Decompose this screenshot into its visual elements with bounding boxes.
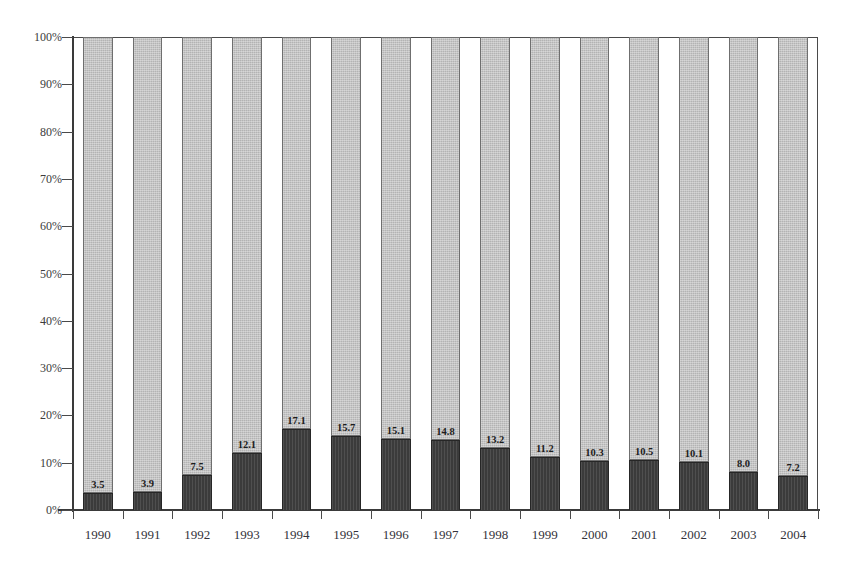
- x-axis-tick: [123, 510, 124, 519]
- x-axis-tick: [172, 510, 173, 519]
- bar-value-label: 15.1: [378, 426, 414, 437]
- bar-value-label: 8.0: [726, 459, 762, 470]
- y-axis-tick-label: 50%: [6, 268, 62, 280]
- bar-segment-upper: [133, 37, 163, 492]
- y-axis-label-wrap: 10%: [0, 463, 62, 464]
- bar-value-label: 13.2: [477, 435, 513, 446]
- bar-value-label: 7.2: [775, 463, 811, 474]
- x-axis-tick: [619, 510, 620, 519]
- bar-segment-upper: [729, 37, 759, 472]
- bars-layer: 3.53.97.512.117.115.715.114.813.211.210.…: [73, 37, 818, 510]
- bar-segment-upper: [530, 37, 560, 457]
- x-axis-tick: [520, 510, 521, 519]
- y-axis-tick: [62, 510, 73, 511]
- bar-column: 17.1: [282, 37, 312, 510]
- x-axis-tick: [321, 510, 322, 519]
- x-axis-tick-label: 1990: [73, 528, 123, 542]
- bar-value-label: 10.1: [676, 449, 712, 460]
- bar-column: 10.5: [629, 37, 659, 510]
- x-axis-tick-label: 1997: [421, 528, 471, 542]
- bar-value-label: 10.3: [577, 448, 613, 459]
- bar-value-label: 14.8: [428, 427, 464, 438]
- x-axis-tick-label: 1999: [520, 528, 570, 542]
- bar-segment-lower: [778, 476, 808, 510]
- x-axis-tick: [222, 510, 223, 519]
- x-axis-tick-label: 1996: [371, 528, 421, 542]
- y-axis-tick: [62, 415, 73, 416]
- bar-column: 10.1: [679, 37, 709, 510]
- x-axis-tick-label: 1991: [123, 528, 173, 542]
- bar-column: 7.5: [182, 37, 212, 510]
- bar-segment-upper: [480, 37, 510, 448]
- x-axis-tick: [570, 510, 571, 519]
- bar-segment-lower: [232, 453, 262, 510]
- y-axis-label-wrap: 30%: [0, 368, 62, 369]
- bar-segment-lower: [580, 461, 610, 510]
- bar-value-label: 12.1: [229, 440, 265, 451]
- x-axis-tick: [768, 510, 769, 519]
- x-axis-tick: [371, 510, 372, 519]
- y-axis-tick-label: 80%: [6, 126, 62, 138]
- bar-column: 14.8: [431, 37, 461, 510]
- y-axis-tick-label: 0%: [6, 504, 62, 516]
- bar-column: 8.0: [729, 37, 759, 510]
- x-axis-tick-label: 2001: [619, 528, 669, 542]
- x-axis-tick: [818, 510, 819, 519]
- y-axis-label-wrap: 40%: [0, 321, 62, 322]
- bar-segment-upper: [232, 37, 262, 453]
- bar-column: 13.2: [480, 37, 510, 510]
- bar-segment-upper: [381, 37, 411, 439]
- x-axis-tick: [470, 510, 471, 519]
- bar-segment-upper: [83, 37, 113, 493]
- y-axis-tick: [62, 463, 73, 464]
- y-axis-label-wrap: 90%: [0, 84, 62, 85]
- bar-segment-upper: [580, 37, 610, 461]
- y-axis-tick-label: 60%: [6, 220, 62, 232]
- y-axis-tick-label: 20%: [6, 409, 62, 421]
- y-axis-tick-label: 90%: [6, 78, 62, 90]
- bar-segment-lower: [282, 429, 312, 510]
- bar-column: 12.1: [232, 37, 262, 510]
- bar-segment-lower: [431, 440, 461, 510]
- bar-segment-lower: [729, 472, 759, 510]
- x-axis-tick-label: 2000: [570, 528, 620, 542]
- y-axis-tick-label: 70%: [6, 173, 62, 185]
- bar-segment-upper: [331, 37, 361, 436]
- bar-segment-upper: [629, 37, 659, 460]
- bar-segment-lower: [133, 492, 163, 510]
- bar-column: 15.1: [381, 37, 411, 510]
- x-axis-tick: [272, 510, 273, 519]
- y-axis-tick: [62, 226, 73, 227]
- y-axis-tick: [62, 84, 73, 85]
- bar-value-label: 17.1: [279, 416, 315, 427]
- y-axis-tick: [62, 179, 73, 180]
- x-axis-tick-label: 1994: [272, 528, 322, 542]
- bar-value-label: 7.5: [179, 462, 215, 473]
- bar-column: 7.2: [778, 37, 808, 510]
- y-axis-label-wrap: 80%: [0, 132, 62, 133]
- y-axis-tick: [62, 368, 73, 369]
- bar-segment-lower: [182, 475, 212, 510]
- clipped-header-strip: [0, 0, 842, 14]
- bar-segment-lower: [679, 462, 709, 510]
- bar-segment-upper: [679, 37, 709, 462]
- x-axis-tick-label: 1995: [321, 528, 371, 542]
- x-axis-tick-label: 1993: [222, 528, 272, 542]
- x-axis-tick-label: 1992: [172, 528, 222, 542]
- bar-segment-upper: [431, 37, 461, 440]
- bar-segment-upper: [778, 37, 808, 476]
- bar-value-label: 15.7: [328, 423, 364, 434]
- y-axis-label-wrap: 70%: [0, 179, 62, 180]
- bar-segment-lower: [629, 460, 659, 510]
- y-axis-tick: [62, 321, 73, 322]
- bar-column: 11.2: [530, 37, 560, 510]
- stacked-bar-chart: 0%10%20%30%40%50%60%70%80%90%100% 199019…: [0, 0, 842, 561]
- x-axis-tick-label: 1998: [470, 528, 520, 542]
- bar-column: 3.5: [83, 37, 113, 510]
- y-axis-tick-label: 30%: [6, 362, 62, 374]
- bar-column: 3.9: [133, 37, 163, 510]
- y-axis-tick: [62, 274, 73, 275]
- y-axis-tick: [62, 132, 73, 133]
- x-axis-tick: [719, 510, 720, 519]
- bar-segment-lower: [331, 436, 361, 510]
